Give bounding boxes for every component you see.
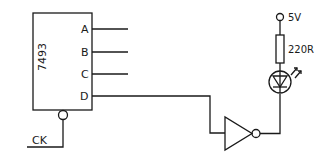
supply-label: 5V — [288, 12, 301, 23]
pin-label-c: C — [81, 68, 89, 81]
led-cathode-wire — [260, 94, 280, 134]
circuit-diagram: A B C D 7493 CK 5V 220R — [0, 0, 328, 163]
supply-terminal — [277, 14, 284, 21]
led-light-arrow-1 — [291, 68, 297, 75]
led-light-arrow-2 — [295, 71, 301, 78]
output-d-wire — [92, 96, 225, 133]
chip-label: 7493 — [36, 43, 49, 71]
clock-label: CK — [32, 134, 48, 147]
resistor-220r — [276, 35, 284, 63]
pin-label-a: A — [81, 23, 89, 36]
inverter-gate — [225, 117, 252, 150]
clock-inversion-bubble — [59, 111, 68, 120]
pin-label-d: D — [80, 90, 88, 103]
resistor-label: 220R — [288, 44, 314, 55]
pin-label-b: B — [81, 46, 89, 59]
